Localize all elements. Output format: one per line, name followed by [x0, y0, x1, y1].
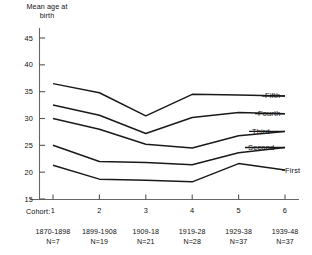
y-tick-label-20: 20: [11, 168, 33, 177]
y-tick-label-25: 25: [11, 141, 33, 150]
series-label-fifth: Fifth: [265, 91, 280, 100]
data-line-first: [53, 164, 285, 182]
y-tick-label-35: 35: [11, 87, 33, 96]
x-tick-label-4: 4: [172, 206, 212, 215]
x-axis-ticks: [53, 195, 285, 200]
y-tick-label-30: 30: [11, 114, 33, 123]
x-tick-label-5: 5: [219, 206, 259, 215]
x-tick-label-3: 3: [126, 206, 166, 215]
y-tick-label-15: 15: [11, 195, 33, 204]
chart-container: Mean age at birth 45 40 35 30 25 20 15 C…: [0, 0, 312, 255]
series-label-second: Second: [248, 143, 274, 152]
cohort-block: 1939-48N=37: [257, 228, 312, 247]
x-tick-label-1: 1: [33, 206, 73, 215]
y-tick-label-45: 45: [11, 34, 33, 43]
data-line-fifth: [53, 84, 285, 116]
cohort-years: 1939-48: [257, 228, 312, 238]
cohort-sample-size: N=37: [257, 238, 312, 248]
series-label-fourth: Fourth: [258, 109, 281, 118]
y-axis-ticks: [40, 38, 46, 199]
y-tick-label-40: 40: [11, 60, 33, 69]
series-label-first: First: [285, 166, 300, 175]
data-line-fourth: [53, 105, 285, 133]
x-tick-label-2: 2: [79, 206, 119, 215]
series-label-third: Third: [252, 127, 270, 136]
data-series-group: [53, 84, 285, 182]
x-tick-label-6: 6: [265, 206, 305, 215]
